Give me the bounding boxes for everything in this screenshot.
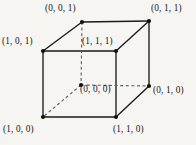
vertex-label-v111: (1, 1, 1) bbox=[82, 36, 113, 47]
edge-v110-v010 bbox=[116, 86, 149, 117]
vertex-label-v101: (1, 0, 1) bbox=[2, 36, 33, 47]
vertex-dot-v010 bbox=[147, 84, 151, 88]
vertex-label-v100: (1, 0, 0) bbox=[3, 124, 34, 135]
vertex-dot-v001 bbox=[80, 20, 84, 24]
vertex-dot-v100 bbox=[41, 115, 45, 119]
vertex-label-v011: (0, 1, 1) bbox=[151, 3, 182, 14]
vertex-dot-v101 bbox=[41, 49, 45, 53]
edge-v001-v011 bbox=[82, 21, 149, 22]
vertex-dot-v110 bbox=[114, 115, 118, 119]
cube-diagram: (0, 0, 1) (0, 1, 1) (1, 0, 1) (1, 1, 1) … bbox=[0, 0, 196, 145]
edge-v011-v111 bbox=[116, 21, 149, 51]
vertex-dot-v111 bbox=[114, 49, 118, 53]
edge-v001-v101 bbox=[43, 22, 82, 51]
edge-v000-v100-hidden bbox=[43, 85, 81, 117]
vertex-label-v000: (0, 0, 0) bbox=[80, 84, 111, 95]
vertex-label-v001: (0, 0, 1) bbox=[45, 3, 76, 14]
vertex-label-v110: (1, 1, 0) bbox=[113, 124, 144, 135]
vertex-dot-v011 bbox=[147, 19, 151, 23]
edge-v001-v000-hidden bbox=[81, 22, 82, 85]
vertex-label-v010: (0, 1, 0) bbox=[153, 85, 184, 96]
